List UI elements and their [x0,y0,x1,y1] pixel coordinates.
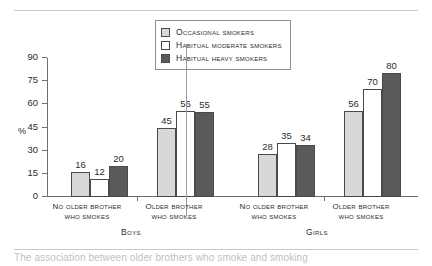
legend-swatch-moderate [161,41,170,50]
y-axis-unit-label: % [18,126,26,136]
bar-value-occasional: 16 [75,159,86,170]
x-label-line1: Older brother [306,202,416,212]
plot-area: 0 15 30 45 60 75 90 16 [47,58,418,197]
y-tick-30: 30 [42,150,47,151]
bar-occasional [71,172,90,197]
y-tick-90: 90 [42,57,47,58]
y-axis-line [47,58,48,197]
bar-heavy [382,73,401,197]
legend-label-occasional: Occasional smokers [176,27,254,37]
bar-value-occasional: 28 [262,141,273,152]
bar-value-occasional: 45 [161,115,172,126]
y-tick-label-30: 30 [27,144,38,155]
figure-caption-clipped: The association between older brothers w… [14,253,314,266]
y-tick-0: 0 [42,196,47,197]
x-label-boys-older-brother: Older brother who smokes [119,202,229,222]
bottom-divider-rule [14,249,418,250]
y-tick-60: 60 [42,103,47,104]
top-divider-rule [14,10,418,11]
bar-heavy [296,145,315,198]
bar-wrap-heavy: 55 [195,112,214,197]
y-tick-75: 75 [42,80,47,81]
x-label-line2: who smokes [306,212,416,222]
y-tick-label-90: 90 [27,51,38,62]
bar-wrap-occasional: 45 [157,128,176,198]
bar-value-heavy: 55 [199,99,210,110]
legend-swatch-occasional [161,28,170,37]
y-tick-label-45: 45 [27,121,38,132]
sex-label-girls: Girls [262,227,372,237]
bar-wrap-moderate: 35 [277,143,296,197]
bar-chart-figure: Occasional smokers Habitual moderate smo… [0,14,432,248]
y-tick-15: 15 [42,173,47,174]
boys-girls-divider [186,44,187,215]
x-tick-girls-mid [324,197,325,201]
bar-moderate [90,179,109,198]
bar-wrap-heavy: 20 [109,166,128,197]
x-label-girls-older-brother: Older brother who smokes [306,202,416,222]
bar-heavy [195,112,214,197]
bar-occasional [344,111,363,198]
sex-label-boys: Boys [76,227,186,237]
bar-wrap-occasional: 16 [71,172,90,197]
bar-value-heavy: 34 [300,132,311,143]
y-tick-45: 45 [42,127,47,128]
bar-wrap-heavy: 80 [382,73,401,197]
x-label-line2: who smokes [119,212,229,222]
y-tick-label-60: 60 [27,97,38,108]
bar-occasional [157,128,176,198]
legend-item-occasional: Occasional smokers [161,26,282,38]
y-tick-label-0: 0 [33,190,38,201]
bar-wrap-heavy: 34 [296,145,315,198]
legend-label-habitual-moderate: Habitual moderate smokers [176,40,282,50]
bar-occasional [258,154,277,197]
bar-heavy [109,166,128,197]
bar-value-heavy: 80 [386,60,397,71]
bar-moderate [277,143,296,197]
bar-moderate [363,89,382,197]
bar-value-occasional: 56 [348,98,359,109]
bar-wrap-moderate: 70 [363,89,382,197]
bar-wrap-occasional: 56 [344,111,363,198]
y-tick-label-75: 75 [27,74,38,85]
x-label-line1: Older brother [119,202,229,212]
bar-value-moderate: 35 [281,130,292,141]
bar-value-heavy: 20 [113,153,124,164]
x-tick-boys-mid [137,197,138,201]
bar-wrap-moderate: 12 [90,179,109,198]
bar-value-moderate: 70 [367,76,378,87]
figure-caption-text: The association between older brothers w… [14,253,314,263]
bar-value-moderate: 12 [94,166,105,177]
y-tick-label-15: 15 [27,167,38,178]
legend-item-habitual-moderate: Habitual moderate smokers [161,39,282,51]
bar-wrap-occasional: 28 [258,154,277,197]
